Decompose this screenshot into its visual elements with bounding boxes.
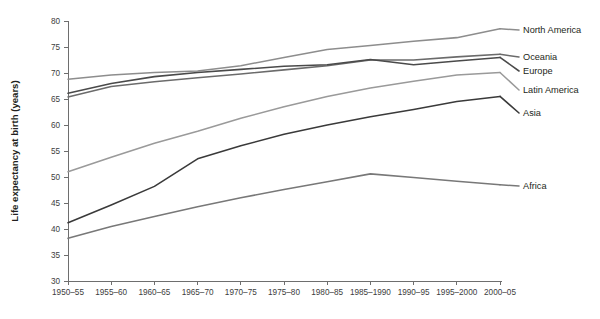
- series-line-north-america: [68, 29, 500, 79]
- y-axis: 3035404550556065707580: [51, 17, 68, 286]
- y-tick-label: 80: [51, 17, 61, 26]
- series-label-asia: Asia: [523, 108, 542, 118]
- chart-canvas: 3035404550556065707580 1950–551955–60196…: [0, 0, 600, 319]
- x-tick-label: 1960–65: [138, 288, 170, 297]
- y-tick-label: 60: [51, 121, 61, 130]
- x-tick-label: 1990–95: [398, 288, 430, 297]
- y-tick-label: 45: [51, 199, 61, 208]
- series-line-asia: [68, 96, 500, 222]
- series-line-oceania: [68, 54, 500, 97]
- series-label-africa: Africa: [523, 181, 547, 191]
- x-tick-label: 1980–85: [311, 288, 343, 297]
- x-axis: 1950–551955–601960–651965–701970–751975–…: [52, 281, 516, 297]
- x-tick-label: 1950–55: [52, 288, 84, 297]
- series-label-oceania: Oceania: [523, 52, 558, 62]
- x-tick-label: 2000–05: [484, 288, 516, 297]
- y-axis-title: Life expectancy at birth (years): [9, 80, 20, 221]
- life-expectancy-line-chart: 3035404550556065707580 1950–551955–60196…: [0, 0, 600, 319]
- y-tick-label: 40: [51, 225, 61, 234]
- series-lines: [68, 29, 500, 239]
- y-tick-label: 30: [51, 277, 61, 286]
- cropped-caption: [8, 310, 228, 319]
- leader-line-north-america: [500, 29, 519, 30]
- leader-line-latin-america: [500, 72, 519, 90]
- series-leader-lines: [500, 29, 519, 186]
- x-tick-label: 1985–1990: [350, 288, 391, 297]
- x-tick-label: 1965–70: [182, 288, 214, 297]
- leader-line-oceania: [500, 54, 519, 57]
- x-tick-label: 1955–60: [95, 288, 127, 297]
- y-tick-label: 55: [51, 147, 61, 156]
- series-label-europe: Europe: [523, 66, 553, 76]
- y-tick-label: 65: [51, 95, 61, 104]
- leader-line-asia: [500, 96, 519, 113]
- y-tick-label: 35: [51, 251, 61, 260]
- series-line-latin-america: [68, 72, 500, 171]
- y-tick-label: 75: [51, 43, 61, 52]
- series-line-africa: [68, 174, 500, 238]
- series-line-europe: [68, 57, 500, 93]
- leader-line-europe: [500, 57, 519, 71]
- series-labels: North AmericaOceaniaEuropeLatin AmericaA…: [523, 25, 582, 191]
- y-axis-title-text: Life expectancy at birth (years): [9, 80, 20, 221]
- series-label-north-america: North America: [523, 25, 582, 35]
- x-tick-label: 1975–80: [268, 288, 300, 297]
- x-tick-label: 1995–2000: [436, 288, 477, 297]
- x-tick-label: 1970–75: [225, 288, 257, 297]
- series-label-latin-america: Latin America: [523, 85, 580, 95]
- leader-line-africa: [500, 185, 519, 186]
- y-tick-label: 50: [51, 173, 61, 182]
- y-tick-label: 70: [51, 69, 61, 78]
